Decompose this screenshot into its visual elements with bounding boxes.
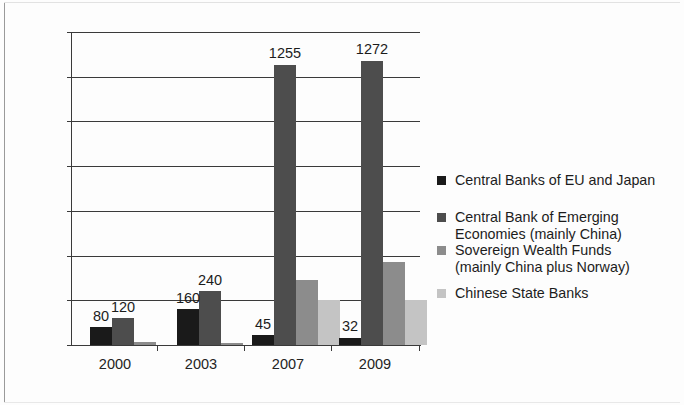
bar-label-2007-series1: 45 [248, 316, 278, 332]
x-separator-1 [157, 345, 158, 351]
bar-label-2003-series2: 240 [195, 272, 225, 288]
legend-label-series1-line1: Central Banks of EU and Japan [455, 172, 655, 189]
bar-2007-sovereign-wealth-funds [296, 280, 318, 345]
bar-2003-sovereign-wealth-funds [221, 343, 243, 345]
x-separator-3 [331, 345, 332, 351]
x-tick-label-2000: 2000 [99, 356, 131, 372]
bar-2000-sovereign-wealth-funds [134, 342, 156, 345]
x-tick-label-2003: 2003 [185, 356, 217, 372]
frame-bottom-border [4, 402, 680, 403]
legend-label-series2-line1: Central Bank of Emerging [455, 209, 619, 226]
x-axis-tick-labels: 2000 2003 2007 2009 [72, 356, 420, 378]
bar-2003-central-banks-eu-japan [177, 309, 199, 345]
legend-label-series2-line2: Economies (mainly China) [455, 226, 622, 243]
plot-area: 80 120 160 240 45 1255 32 1272 [72, 32, 420, 345]
frame-left-border [4, 2, 5, 403]
bar-2000-central-banks-eu-japan [90, 327, 112, 345]
y-axis-line [71, 32, 72, 346]
gridline-1400 [72, 32, 420, 33]
bar-2009-chinese-state-banks [405, 300, 427, 345]
x-tick-label-2007: 2007 [272, 356, 304, 372]
y-tick-0 [67, 345, 72, 346]
bar-label-2003-series1: 160 [173, 290, 203, 306]
y-tick-1200 [67, 77, 72, 78]
bar-2009-sovereign-wealth-funds [383, 262, 405, 345]
x-separator-4 [419, 345, 420, 351]
y-tick-400 [67, 256, 72, 257]
y-tick-1400 [67, 32, 72, 33]
bar-label-2007-series2: 1255 [262, 45, 308, 61]
bar-2007-central-banks-eu-japan [252, 335, 274, 345]
bar-2009-central-bank-emerging [361, 61, 383, 345]
bar-label-2000-series2: 120 [108, 299, 138, 315]
frame-top-border [4, 2, 680, 3]
chart-page: 1400 1200 1000 800 600 400 200 0 [0, 0, 684, 405]
legend-swatch-icon-series2 [437, 213, 446, 222]
bar-2007-central-bank-emerging [274, 65, 296, 346]
legend-swatch-icon-series1 [437, 176, 446, 185]
legend-label-series3-line2: (mainly China plus Norway) [455, 259, 630, 276]
bar-label-2009-series1: 32 [335, 318, 365, 334]
y-tick-600 [67, 211, 72, 212]
legend-swatch-icon-series3 [437, 246, 446, 255]
legend-swatch-icon-series4 [437, 289, 446, 298]
bar-label-2009-series2: 1272 [349, 41, 395, 57]
y-tick-1000 [67, 121, 72, 122]
x-tick-label-2009: 2009 [359, 356, 391, 372]
bar-2009-central-banks-eu-japan [339, 338, 361, 345]
y-tick-200 [67, 300, 72, 301]
y-tick-800 [67, 166, 72, 167]
x-axis-line [71, 345, 421, 346]
legend-label-series3-line1: Sovereign Wealth Funds [455, 242, 611, 259]
x-separator-2 [244, 345, 245, 351]
legend-label-series4-line1: Chinese State Banks [455, 285, 589, 302]
